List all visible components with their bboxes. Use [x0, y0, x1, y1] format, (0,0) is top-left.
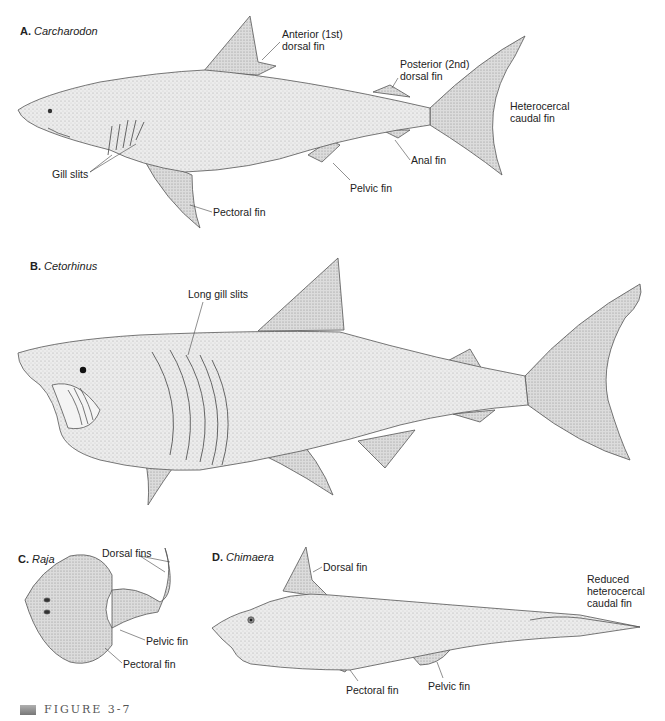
label-raja-pectoral-fin: Pectoral fin: [123, 658, 176, 670]
label-chimaera-pectoral-fin: Pectoral fin: [346, 684, 399, 696]
panel-b-title: B. Cetorhinus: [30, 260, 97, 272]
chimaera-illustration: [212, 547, 640, 672]
label-pelvic-fin: Pelvic fin: [350, 182, 392, 194]
label-gill-slits: Gill slits: [52, 168, 88, 180]
caption-marker: [20, 705, 36, 715]
label-heterocercal-caudal-fin: Heterocercal caudal fin: [510, 100, 570, 124]
label-long-gill-slits: Long gill slits: [188, 288, 248, 300]
label-anal-fin: Anal fin: [411, 154, 446, 166]
carcharodon-illustration: [18, 16, 525, 228]
label-posterior-dorsal-fin: Posterior (2nd) dorsal fin: [400, 58, 469, 82]
label-raja-pelvic-fin: Pelvic fin: [146, 635, 188, 647]
panel-d-title: D. Chimaera: [212, 551, 274, 563]
label-chimaera-pelvic-fin: Pelvic fin: [428, 680, 470, 692]
label-pectoral-fin: Pectoral fin: [213, 206, 266, 218]
cetorhinus-illustration: [18, 258, 641, 505]
label-reduced-caudal-fin: Reduced heterocercal caudal fin: [587, 573, 645, 609]
panel-c-title: C. Raja: [18, 553, 55, 565]
label-dorsal-fins: Dorsal fins: [102, 547, 152, 559]
panel-a-title: A. Carcharodon: [20, 25, 98, 37]
label-chimaera-dorsal-fin: Dorsal fin: [323, 561, 367, 573]
caption-text: FIGURE 3-7: [44, 703, 132, 716]
label-anterior-dorsal-fin: Anterior (1st) dorsal fin: [282, 28, 343, 52]
figure-caption: FIGURE 3-7: [20, 703, 132, 716]
